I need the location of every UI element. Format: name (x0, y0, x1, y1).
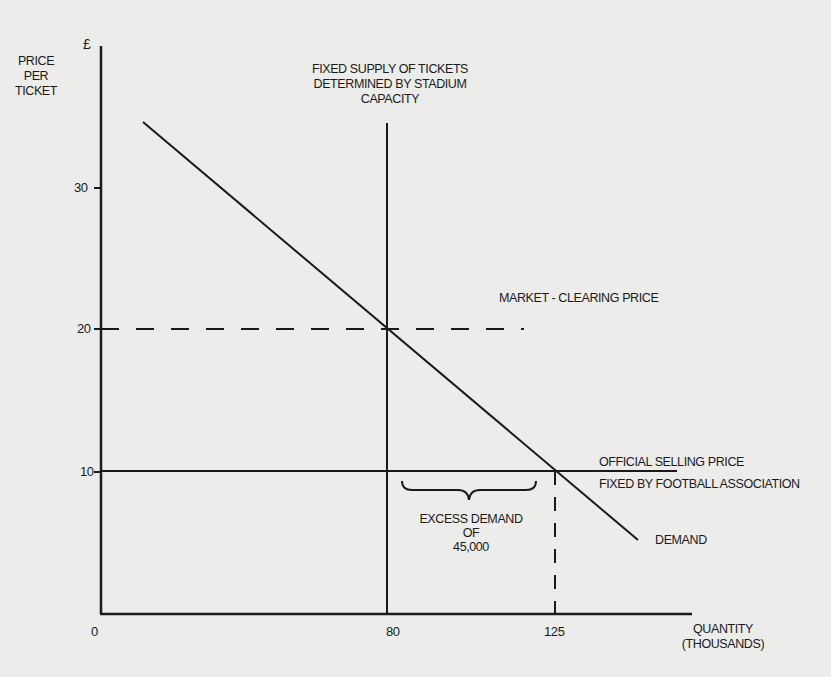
x-title-line-2: (THOUSANDS) (668, 637, 778, 652)
y-axis-title: PRICE PER TICKET (6, 54, 66, 99)
excess-demand-annotation: EXCESS DEMAND OF 45,000 (411, 512, 531, 554)
y-title-line-2: PER (6, 69, 66, 84)
x-tick-label-0: 0 (91, 624, 98, 639)
market-clearing-annotation: MARKET - CLEARING PRICE (499, 291, 658, 306)
y-tick-label-20: 20 (77, 321, 91, 336)
x-title-line-1: QUANTITY (668, 622, 778, 637)
y-title-line-3: TICKET (6, 84, 66, 99)
excess-demand-brace (402, 481, 536, 500)
official-price-line-2: FIXED BY FOOTBALL ASSOCIATION (599, 473, 800, 495)
y-unit-label: £ (83, 37, 90, 52)
official-price-annotation: OFFICIAL SELLING PRICE FIXED BY FOOTBALL… (599, 451, 800, 495)
demand-annotation: DEMAND (655, 533, 707, 548)
supply-line-3: CAPACITY (300, 92, 480, 107)
supply-annotation: FIXED SUPPLY OF TICKETS DETERMINED BY ST… (300, 62, 480, 107)
supply-line-2: DETERMINED BY STADIUM (300, 77, 480, 92)
x-tick-label-125: 125 (544, 624, 565, 639)
excess-demand-line-1: EXCESS DEMAND (411, 512, 531, 526)
y-tick-label-30: 30 (74, 180, 88, 195)
x-axis-title: QUANTITY (THOUSANDS) (668, 622, 778, 652)
y-title-line-1: PRICE (6, 54, 66, 69)
official-price-line-1: OFFICIAL SELLING PRICE (599, 451, 800, 473)
excess-demand-line-2: OF (411, 526, 531, 540)
y-tick-label-10: 10 (80, 464, 94, 479)
excess-demand-line-3: 45,000 (411, 540, 531, 554)
demand-line (143, 122, 638, 540)
supply-line-1: FIXED SUPPLY OF TICKETS (300, 62, 480, 77)
x-tick-label-80: 80 (386, 624, 400, 639)
